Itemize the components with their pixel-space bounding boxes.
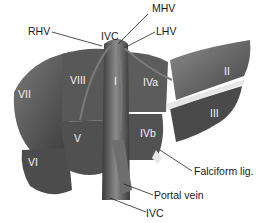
label-rhv: RHV xyxy=(28,26,50,37)
segment-label-iii: III xyxy=(210,108,219,119)
segment-label-vi: VI xyxy=(28,157,38,168)
label-falciform-lig: Falciform lig. xyxy=(194,166,254,177)
label-mhv: MHV xyxy=(152,3,175,14)
segment-vii-shape xyxy=(14,52,70,150)
segment-vi-shape xyxy=(22,148,72,194)
label-ivc-top: IVC xyxy=(101,31,119,42)
label-lhv: LHV xyxy=(156,26,176,37)
segment-label-ivb: IVb xyxy=(140,128,156,139)
segment-label-vii: VII xyxy=(18,89,31,100)
segment-label-i: I xyxy=(114,76,117,87)
segment-label-ii: II xyxy=(224,66,230,77)
segment-label-iva: IVa xyxy=(143,77,158,88)
label-ivc-bottom: IVC xyxy=(146,208,164,219)
label-portal-vein: Portal vein xyxy=(154,190,204,201)
segment-label-viii: VIII xyxy=(70,75,86,86)
segment-label-v: V xyxy=(74,133,81,144)
liver-diagram: MHV RHV IVC LHV Falciform lig. Portal ve… xyxy=(0,0,259,223)
